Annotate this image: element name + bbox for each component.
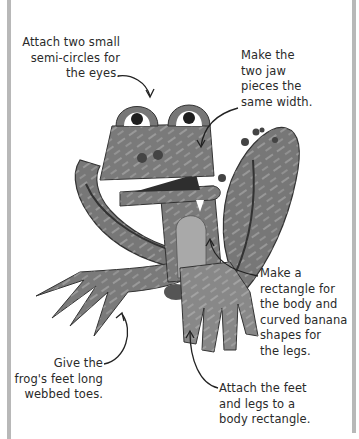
- right-eye: [168, 105, 210, 126]
- left-eye: [116, 107, 158, 127]
- arrow-toes: [104, 314, 128, 364]
- annotation-toes: Give the frog's feet long webbed toes.: [10, 356, 103, 403]
- annotation-jaw: Make the two jaw pieces the same width.: [241, 48, 341, 110]
- annotation-feet: Attach the feet and legs to a body recta…: [219, 381, 349, 428]
- annotation-body: Make a rectangle for the body and curved…: [260, 266, 355, 359]
- arrow-eyes: [118, 76, 150, 96]
- annotation-eyes: Attach two small semi-circles for the ey…: [20, 35, 120, 82]
- book-page: Attach two small semi-circles for the ey…: [0, 0, 359, 439]
- left-foot: [36, 262, 184, 336]
- frog-head: [100, 105, 220, 222]
